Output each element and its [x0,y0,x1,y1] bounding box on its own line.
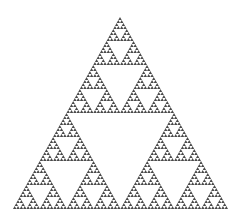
sierpinski-figure [0,0,244,219]
sierpinski-triangle-graphic [0,0,244,219]
fractal-path [13,17,228,209]
